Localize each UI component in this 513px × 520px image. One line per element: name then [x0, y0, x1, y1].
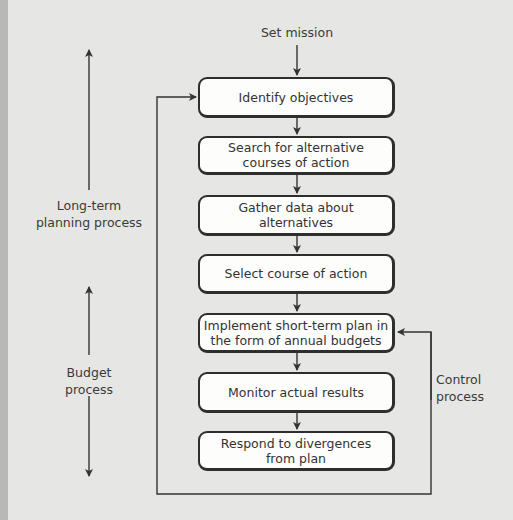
label-long-term-planning: Long-term planning process [24, 197, 154, 231]
step-respond-divergences: Respond to divergences from plan [198, 431, 395, 471]
step-search-alternatives: Search for alternative courses of action [198, 136, 395, 175]
step-implement-budgets: Implement short-term plan in the form of… [198, 313, 395, 353]
label-control-process: Control process [436, 371, 496, 405]
step-select-course: Select course of action [198, 254, 395, 294]
label-budget-process: Budget process [44, 364, 134, 398]
step-monitor-results: Monitor actual results [198, 372, 395, 413]
start-label-set-mission: Set mission [247, 24, 347, 41]
step-gather-data: Gather data about alternatives [198, 195, 395, 236]
step-identify-objectives: Identify objectives [198, 77, 395, 118]
